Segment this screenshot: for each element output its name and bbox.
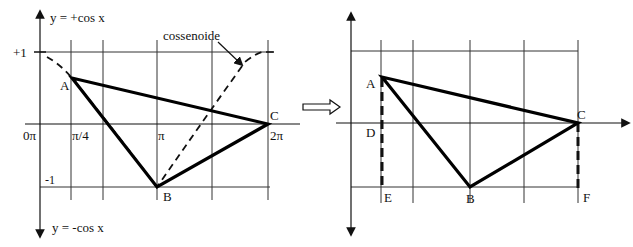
cosine-curve	[47, 52, 262, 187]
x-tick-0pi: 0π	[23, 128, 37, 143]
right-triangle	[382, 77, 578, 187]
top-axis-label: y = +cos x	[50, 10, 105, 25]
bottom-axis-label: y = -cos x	[52, 220, 104, 235]
right-point-b-label: B	[466, 191, 475, 206]
left-grid	[40, 40, 273, 200]
right-point-d-label: D	[366, 125, 375, 140]
left-triangle	[72, 78, 268, 187]
y-tick-plus-one: +1	[13, 45, 27, 60]
right-point-f-label: F	[583, 190, 590, 205]
x-tick-pi-4: π/4	[72, 128, 89, 143]
point-b-label: B	[163, 189, 172, 204]
left-graph: y = +cos x y = -cos x cossenoide +1 -1 0…	[13, 10, 300, 235]
right-point-c-label: C	[577, 107, 586, 122]
y-tick-minus-one: -1	[45, 173, 55, 187]
cosine-triangle-diagram: y = +cos x y = -cos x cossenoide +1 -1 0…	[0, 0, 633, 247]
curve-label: cossenoide	[163, 28, 220, 43]
right-graph: A B C D E F	[336, 16, 626, 232]
x-tick-2pi: 2π	[270, 128, 284, 143]
transition-arrow	[303, 100, 340, 114]
right-point-a-label: A	[366, 76, 376, 91]
right-point-e-label: E	[384, 190, 392, 205]
point-c-label: C	[270, 108, 279, 123]
point-a-label: A	[60, 78, 70, 93]
x-tick-pi: π	[158, 128, 165, 143]
